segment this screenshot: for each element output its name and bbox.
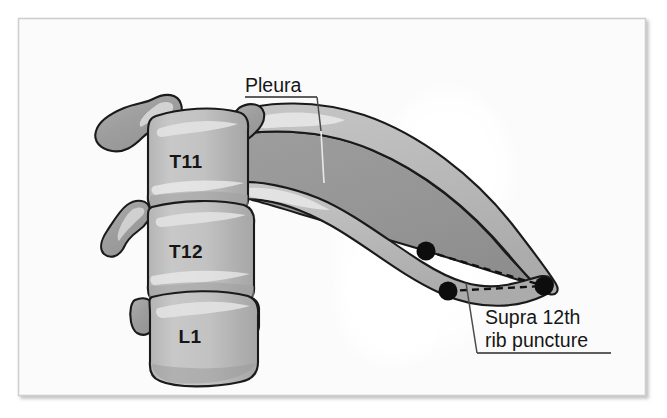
pleura-label: Pleura bbox=[245, 74, 302, 96]
supra-12th-label-line2: rib puncture bbox=[485, 329, 588, 351]
vertebra-label-t12: T12 bbox=[169, 241, 203, 262]
vertebra-label-t11: T11 bbox=[170, 151, 203, 172]
upper-needle-dot bbox=[417, 242, 436, 261]
figure-canvas: Pleura Supra 12th rib puncture T11 T12 L… bbox=[0, 0, 667, 418]
rib-tip-dot bbox=[535, 277, 554, 296]
vertebral-column bbox=[148, 109, 258, 387]
supra-12th-label-line1: Supra 12th bbox=[485, 306, 580, 328]
anatomical-figure: Pleura Supra 12th rib puncture T11 T12 L… bbox=[0, 0, 667, 418]
vertebra-label-l1: L1 bbox=[179, 326, 202, 347]
lower-needle-dot bbox=[439, 282, 458, 301]
